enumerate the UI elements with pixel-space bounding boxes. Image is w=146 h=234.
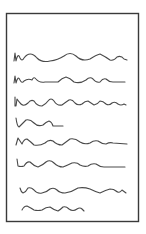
page-illustration [0, 0, 146, 234]
